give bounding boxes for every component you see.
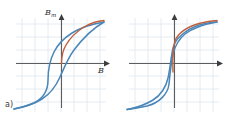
panel-a-x-axis-label: B [98, 67, 104, 75]
panel-b-plot [113, 0, 226, 121]
panel-a-y-axis-label: Bm [45, 9, 56, 17]
panel-b: Bm B b) [113, 0, 226, 121]
hysteresis-figure: Bm B a) [0, 0, 226, 121]
hysteresis-loop-a [14, 22, 104, 109]
panel-a-plot [0, 0, 113, 121]
panel-a-caption-label: a) [5, 101, 13, 109]
panel-a: Bm B a) [0, 0, 113, 121]
hysteresis-loop-b [127, 22, 217, 110]
axes-b [129, 14, 223, 108]
